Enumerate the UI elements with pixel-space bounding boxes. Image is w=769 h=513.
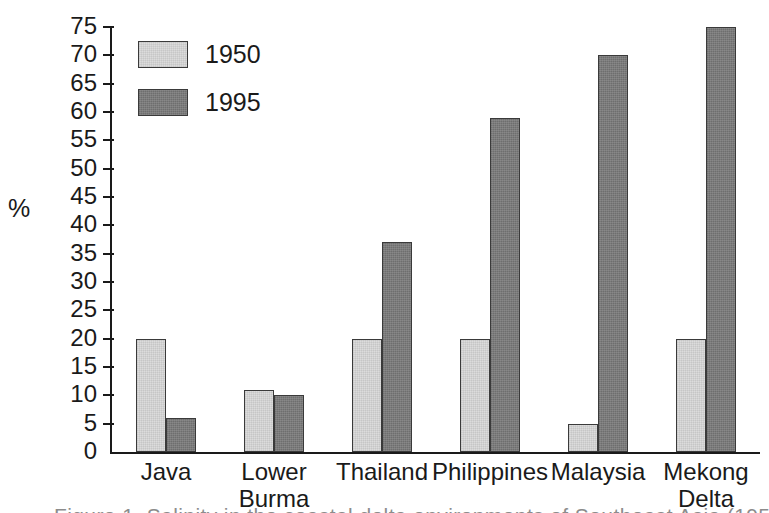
y-axis-tick-label: 30 [70,269,97,293]
y-axis-tick-label: 50 [70,156,97,180]
legend-swatch-1950 [138,41,188,68]
y-axis-tick-label: 15 [70,354,97,378]
y-axis-tick-label: 40 [70,212,97,236]
bar-mekong-delta-1950 [676,339,706,452]
y-axis-tick-label: 75 [70,14,97,38]
bar-mekong-delta-1995 [706,27,736,452]
bar-chart: % 051015202530354045505560657075 JavaLow… [0,0,769,513]
bar-malaysia-1995 [598,55,628,452]
bar-lower-burma-1950 [244,390,274,452]
bar-thailand-1950 [352,339,382,452]
legend-item: 1950 [138,38,261,70]
y-axis-tick-label: 70 [70,42,97,66]
bar-malaysia-1950 [568,424,598,452]
y-axis-tick-label: 60 [70,99,97,123]
bar-philippines-1950 [460,339,490,452]
y-axis-tick-label: 35 [70,241,97,265]
y-axis-tick-label: 55 [70,127,97,151]
y-axis-tick-label: 0 [84,439,97,463]
bar-java-1995 [166,418,196,452]
legend-item: 1995 [138,86,261,118]
y-axis-tick-label: 25 [70,297,97,321]
bar-lower-burma-1995 [274,395,304,452]
bar-java-1950 [136,339,166,452]
y-axis-tick-label: 65 [70,71,97,95]
y-axis-ticks: 051015202530354045505560657075 [0,0,114,513]
y-axis-tick-label: 45 [70,184,97,208]
legend-swatch-1995 [138,89,188,116]
legend-label: 1950 [205,42,261,67]
legend-label: 1995 [205,90,261,115]
y-axis-tick-label: 5 [84,411,97,435]
bar-philippines-1995 [490,118,520,452]
x-axis-line [110,452,760,454]
y-axis-tick-label: 20 [70,326,97,350]
bar-thailand-1995 [382,242,412,452]
figure-caption-remnant: Figure 1. Salinity in the coastal delta … [0,503,769,513]
y-axis-tick-label: 10 [70,382,97,406]
legend: 19501995 [138,38,261,134]
